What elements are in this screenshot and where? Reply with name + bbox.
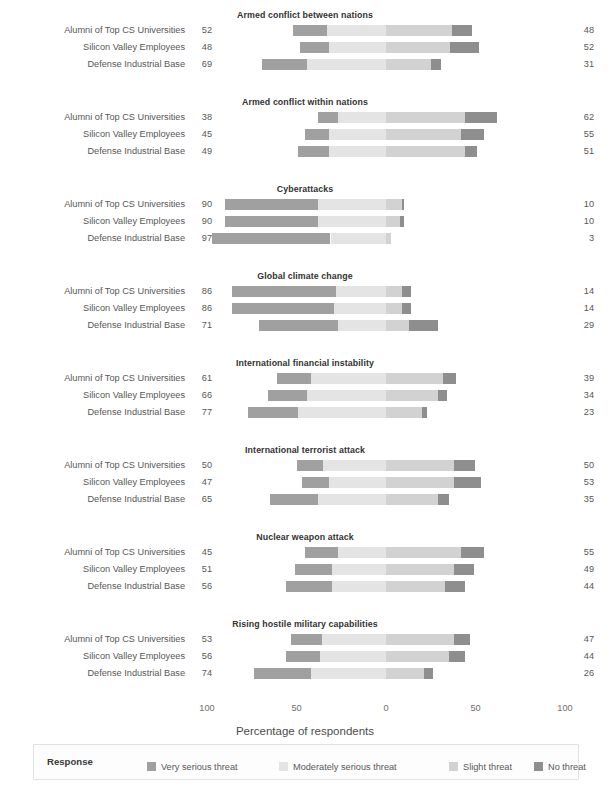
bar-segment bbox=[445, 581, 465, 592]
bar-segment bbox=[323, 460, 386, 471]
bar-segment bbox=[277, 373, 311, 384]
bar-segment bbox=[262, 59, 307, 70]
chart-row: Defense Industrial Base4951 bbox=[0, 144, 610, 158]
chart-panel: CyberattacksAlumni of Top CS Universitie… bbox=[0, 184, 610, 271]
row-bar bbox=[0, 373, 610, 384]
bar-segment bbox=[465, 112, 497, 123]
bar-segment bbox=[322, 634, 386, 645]
row-bar bbox=[0, 634, 610, 645]
bar-segment bbox=[386, 42, 450, 53]
axis-tick-label: 50 bbox=[277, 703, 317, 713]
bar-segment bbox=[318, 199, 386, 210]
bar-segment bbox=[298, 407, 386, 418]
row-bar bbox=[0, 668, 610, 679]
axis-tick-label: 100 bbox=[545, 703, 585, 713]
legend-item[interactable]: Slight threat bbox=[449, 756, 512, 768]
bar-segment bbox=[386, 581, 445, 592]
bar-segment bbox=[386, 564, 454, 575]
bar-segment bbox=[454, 634, 470, 645]
bar-segment bbox=[225, 216, 318, 227]
bar-segment bbox=[409, 320, 438, 331]
bar-segment bbox=[327, 25, 386, 36]
row-bar bbox=[0, 42, 610, 53]
bar-segment bbox=[400, 216, 404, 227]
row-bar bbox=[0, 547, 610, 558]
diverging-bar-chart: Armed conflict between nationsAlumni of … bbox=[0, 0, 610, 795]
legend-swatch-icon bbox=[147, 762, 156, 771]
chart-row: Alumni of Top CS Universities3862 bbox=[0, 110, 610, 124]
bar-segment bbox=[259, 320, 338, 331]
bar-segment bbox=[320, 651, 386, 662]
bar-segment bbox=[293, 25, 327, 36]
bar-segment bbox=[438, 390, 447, 401]
bar-segment bbox=[298, 146, 328, 157]
bar-segment bbox=[386, 216, 400, 227]
legend-item[interactable]: Moderately serious threat bbox=[279, 756, 397, 768]
bar-segment bbox=[307, 390, 386, 401]
chart-row: Defense Industrial Base7723 bbox=[0, 405, 610, 419]
x-axis-label: Percentage of respondents bbox=[0, 725, 610, 737]
bar-segment bbox=[461, 129, 484, 140]
bar-segment bbox=[386, 303, 402, 314]
bar-segment bbox=[386, 651, 449, 662]
axis-tick-label: 50 bbox=[456, 703, 496, 713]
chart-panel: International financial instabilityAlumn… bbox=[0, 358, 610, 445]
chart-panel: Nuclear weapon attackAlumni of Top CS Un… bbox=[0, 532, 610, 619]
bar-segment bbox=[386, 59, 431, 70]
axis-tick-label: 0 bbox=[366, 703, 406, 713]
bar-segment bbox=[270, 494, 318, 505]
legend-item[interactable]: No threat bbox=[534, 756, 586, 768]
bar-segment bbox=[302, 477, 329, 488]
bar-segment bbox=[295, 564, 333, 575]
row-bar bbox=[0, 477, 610, 488]
legend-swatch-icon bbox=[449, 762, 458, 771]
bar-segment bbox=[332, 564, 386, 575]
row-bar bbox=[0, 216, 610, 227]
chart-panel: Armed conflict within nationsAlumni of T… bbox=[0, 97, 610, 184]
bar-segment bbox=[232, 286, 336, 297]
chart-panel: Global climate changeAlumni of Top CS Un… bbox=[0, 271, 610, 358]
chart-row: Silicon Valley Employees5644 bbox=[0, 649, 610, 663]
chart-row: Silicon Valley Employees4852 bbox=[0, 40, 610, 54]
bar-segment bbox=[297, 460, 324, 471]
panel-title: Rising hostile military capabilities bbox=[0, 619, 610, 629]
bar-segment bbox=[402, 199, 404, 210]
bar-segment bbox=[386, 233, 391, 244]
panel-title: Armed conflict between nations bbox=[0, 10, 610, 20]
bar-segment bbox=[311, 668, 386, 679]
row-bar bbox=[0, 233, 610, 244]
bar-segment bbox=[386, 407, 422, 418]
bar-segment bbox=[443, 373, 456, 384]
bar-segment bbox=[454, 460, 475, 471]
row-bar bbox=[0, 199, 610, 210]
chart-row: Alumni of Top CS Universities5347 bbox=[0, 632, 610, 646]
chart-row: Defense Industrial Base973 bbox=[0, 231, 610, 245]
panel-title: Armed conflict within nations bbox=[0, 97, 610, 107]
row-bar bbox=[0, 129, 610, 140]
bar-segment bbox=[454, 564, 474, 575]
row-bar bbox=[0, 59, 610, 70]
bar-segment bbox=[386, 547, 461, 558]
panel-title: Global climate change bbox=[0, 271, 610, 281]
bar-segment bbox=[338, 547, 386, 558]
chart-row: Silicon Valley Employees4753 bbox=[0, 475, 610, 489]
bar-segment bbox=[452, 25, 472, 36]
chart-row: Silicon Valley Employees9010 bbox=[0, 214, 610, 228]
bar-segment bbox=[438, 494, 449, 505]
legend-label: Moderately serious threat bbox=[293, 762, 397, 772]
legend: Response Very serious threatModerately s… bbox=[33, 744, 579, 780]
bar-segment bbox=[268, 390, 307, 401]
bar-segment bbox=[386, 199, 402, 210]
bar-segment bbox=[291, 634, 321, 645]
bar-segment bbox=[386, 129, 461, 140]
bar-segment bbox=[386, 25, 452, 36]
chart-row: Alumni of Top CS Universities9010 bbox=[0, 197, 610, 211]
bar-segment bbox=[454, 477, 481, 488]
chart-row: Alumni of Top CS Universities5248 bbox=[0, 23, 610, 37]
row-bar bbox=[0, 494, 610, 505]
legend-item[interactable]: Very serious threat bbox=[147, 756, 238, 768]
bar-segment bbox=[212, 233, 330, 244]
bar-segment bbox=[329, 129, 386, 140]
chart-title bbox=[0, 0, 610, 5]
bar-segment bbox=[305, 547, 337, 558]
